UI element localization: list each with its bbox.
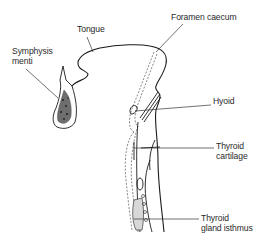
hyoid-shape [130, 92, 161, 122]
label-symphysis-menti: Symphysis menti [12, 46, 53, 66]
anatomy-diagram [0, 0, 260, 243]
label-thyroid-gland-isthmus: Thyroid gland isthmus [201, 213, 253, 233]
thyroid-isthmus-shape [133, 195, 148, 231]
label-foramen-caecum: Foramen caecum [171, 12, 236, 22]
label-thyroid-cartilage: Thyroid cartilage [216, 141, 248, 161]
label-tongue: Tongue [77, 24, 105, 34]
label-hyoid: Hyoid [213, 96, 234, 106]
tongue-outline [72, 45, 166, 232]
leader-lines [26, 24, 214, 219]
